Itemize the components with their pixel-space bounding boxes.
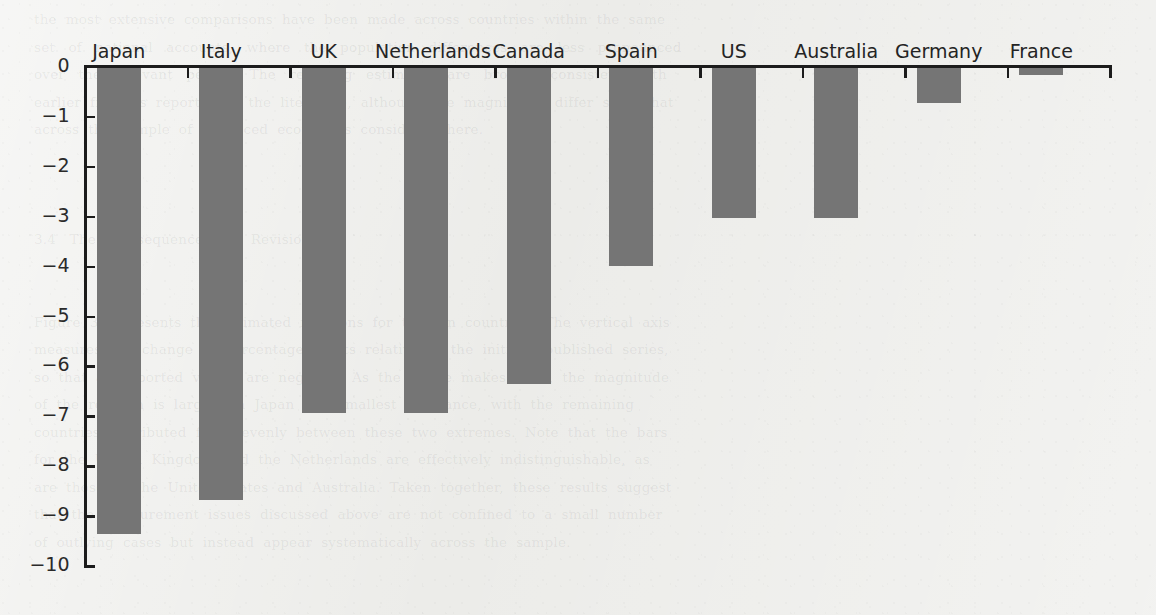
y-axis-tick [84, 116, 95, 119]
x-axis-category-label: Australia [785, 40, 888, 62]
x-axis-category-label: Canada [478, 40, 581, 62]
x-axis-category-label: UK [273, 40, 376, 62]
y-axis-tick-label: −3 [0, 204, 70, 226]
y-axis-tick [84, 365, 95, 368]
y-axis-tick-label: −9 [0, 503, 70, 525]
x-axis-category-label: Japan [68, 40, 171, 62]
y-axis-tick-label: −5 [0, 304, 70, 326]
y-axis-tick-label: −1 [0, 104, 70, 126]
y-axis-tick [84, 316, 95, 319]
x-axis-tick [802, 66, 805, 78]
bar [1019, 68, 1063, 75]
y-axis-tick [84, 166, 95, 169]
x-axis-tick [699, 66, 702, 78]
x-axis-tick [904, 66, 907, 78]
x-axis-category-label: Italy [170, 40, 273, 62]
y-axis-tick [84, 216, 95, 219]
bar [507, 68, 551, 384]
x-axis-tick [187, 66, 190, 78]
scanned-page: the most extensive comparisons have been… [0, 0, 1156, 615]
y-axis-tick-label: −10 [0, 553, 70, 575]
y-axis-tick-label: −6 [0, 353, 70, 375]
x-axis-tick [1007, 66, 1010, 78]
y-axis-tick [84, 415, 95, 418]
x-axis-tick [289, 66, 292, 78]
bar [199, 68, 243, 500]
y-axis-tick-label: −7 [0, 403, 70, 425]
x-axis-tick [392, 66, 395, 78]
bar [814, 68, 858, 218]
y-axis-tick [84, 565, 95, 568]
x-axis-category-label: Netherlands [375, 40, 478, 62]
x-axis-category-label: France [990, 40, 1093, 62]
x-axis-tick [597, 66, 600, 78]
y-axis-tick [84, 465, 95, 468]
bar [97, 68, 141, 534]
x-axis-category-label: US [683, 40, 786, 62]
y-axis-tick [84, 515, 95, 518]
x-axis-tick [1109, 66, 1112, 78]
y-axis-tick-label: −4 [0, 254, 70, 276]
y-axis-tick-label: −2 [0, 154, 70, 176]
y-axis-tick-label: −8 [0, 453, 70, 475]
bar-chart: 0−1−2−3−4−5−6−7−8−9−10JapanItalyUKNether… [0, 0, 1156, 615]
bar [302, 68, 346, 413]
y-axis-tick [84, 266, 95, 269]
x-axis-category-label: Spain [580, 40, 683, 62]
bar [917, 68, 961, 103]
bar [712, 68, 756, 218]
x-axis-tick [494, 66, 497, 78]
bar [404, 68, 448, 413]
y-axis-tick-label: 0 [0, 54, 70, 76]
x-axis-category-label: Germany [888, 40, 991, 62]
bar [609, 68, 653, 266]
